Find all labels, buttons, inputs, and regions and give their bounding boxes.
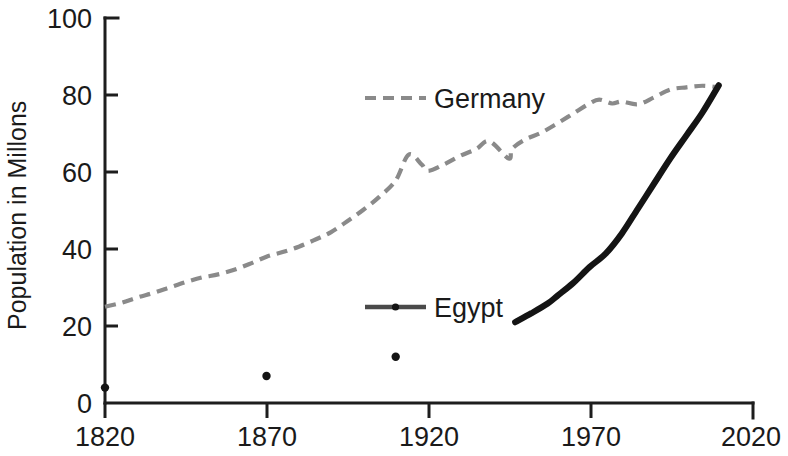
x-tick-label-1970: 1970 bbox=[561, 422, 621, 452]
y-tick-marks bbox=[105, 95, 118, 326]
x-tick-label-1820: 1820 bbox=[75, 422, 135, 452]
y-tick-label-80: 80 bbox=[62, 81, 92, 111]
legend-item-germany: Germany bbox=[365, 84, 546, 114]
x-tick-label-1920: 1920 bbox=[399, 422, 459, 452]
x-tick-labels: 1820 1870 1920 1970 2020 bbox=[75, 422, 781, 452]
scatter-point bbox=[101, 383, 109, 391]
scatter-point bbox=[262, 372, 270, 380]
population-chart: Population in Millons 100 80 60 40 20 0 … bbox=[0, 0, 788, 456]
series-line-egypt bbox=[515, 85, 718, 322]
legend-swatch-egypt-marker-icon bbox=[392, 303, 399, 310]
x-tick-label-1870: 1870 bbox=[237, 422, 297, 452]
x-tick-label-2020: 2020 bbox=[721, 422, 781, 452]
legend-label-egypt: Egypt bbox=[434, 293, 504, 323]
scatter-point bbox=[392, 353, 400, 361]
y-tick-label-0: 0 bbox=[77, 389, 92, 419]
x-tick-marks bbox=[105, 403, 591, 418]
y-tick-label-60: 60 bbox=[62, 158, 92, 188]
legend-item-egypt: Egypt bbox=[365, 293, 504, 323]
scatter-points bbox=[101, 353, 400, 392]
y-axis-title: Population in Millons bbox=[3, 101, 31, 330]
series-line-germany bbox=[105, 86, 719, 307]
y-tick-label-100: 100 bbox=[47, 4, 92, 34]
y-tick-label-40: 40 bbox=[62, 235, 92, 265]
legend-label-germany: Germany bbox=[434, 84, 546, 114]
chart-svg: Population in Millons 100 80 60 40 20 0 … bbox=[0, 0, 788, 456]
y-tick-label-20: 20 bbox=[62, 312, 92, 342]
y-tick-labels: 100 80 60 40 20 0 bbox=[47, 4, 92, 419]
